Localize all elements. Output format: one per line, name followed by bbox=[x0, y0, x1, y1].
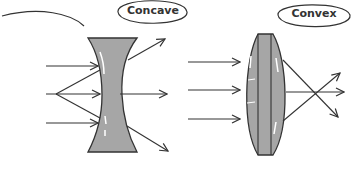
concave-lens bbox=[88, 38, 137, 152]
convex-lens bbox=[247, 34, 285, 155]
convex-label: Convex bbox=[280, 7, 348, 20]
concave-label: Concave bbox=[120, 4, 186, 17]
lens-diagram bbox=[0, 0, 359, 181]
